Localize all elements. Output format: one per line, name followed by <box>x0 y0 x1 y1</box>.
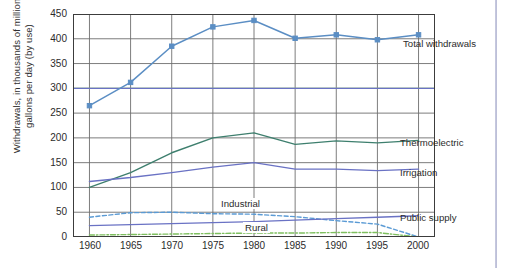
x-tick-1970: 1970 <box>152 240 192 251</box>
series-marker-total-withdrawals-1980 <box>252 18 256 22</box>
x-tick-1985: 1985 <box>275 240 315 251</box>
series-label-public-supply: Public supply <box>400 212 457 223</box>
series-label-total-withdrawals: Total withdrawals <box>403 38 476 49</box>
x-tick-2000: 2000 <box>398 240 438 251</box>
y-tick-450: 450 <box>33 8 67 19</box>
series-marker-total-withdrawals-1990 <box>334 33 338 37</box>
series-marker-total-withdrawals-1970 <box>170 44 174 48</box>
chart-figure: Withdrawals, in thousands of million gal… <box>0 0 507 268</box>
x-tick-1975: 1975 <box>193 240 233 251</box>
series-label-thermoelectric: Thermoelectric <box>400 137 463 148</box>
x-tick-1995: 1995 <box>357 240 397 251</box>
series-marker-total-withdrawals-1985 <box>293 36 297 40</box>
x-tick-1990: 1990 <box>316 240 356 251</box>
y-tick-300: 300 <box>33 82 67 93</box>
x-tick-1965: 1965 <box>111 240 151 251</box>
x-tick-1960: 1960 <box>70 240 110 251</box>
y-tick-400: 400 <box>33 33 67 44</box>
series-marker-total-withdrawals-1995 <box>375 38 379 42</box>
page-right-border <box>495 0 497 268</box>
series-marker-total-withdrawals-1960 <box>87 103 91 107</box>
y-tick-250: 250 <box>33 107 67 118</box>
series-label-irrigation: Irrigation <box>400 167 437 178</box>
series-marker-total-withdrawals-1965 <box>128 80 132 84</box>
y-tick-200: 200 <box>33 132 67 143</box>
series-marker-total-withdrawals-1975 <box>211 25 215 29</box>
series-marker-total-withdrawals-2000 <box>416 33 420 37</box>
y-tick-150: 150 <box>33 157 67 168</box>
y-tick-350: 350 <box>33 58 67 69</box>
industrial-inline-label: Industrial <box>219 198 262 209</box>
y-tick-100: 100 <box>33 181 67 192</box>
rural-inline-label: Rural <box>243 222 270 233</box>
y-tick-0: 0 <box>33 231 67 242</box>
y-tick-50: 50 <box>33 206 67 217</box>
x-tick-1980: 1980 <box>234 240 274 251</box>
